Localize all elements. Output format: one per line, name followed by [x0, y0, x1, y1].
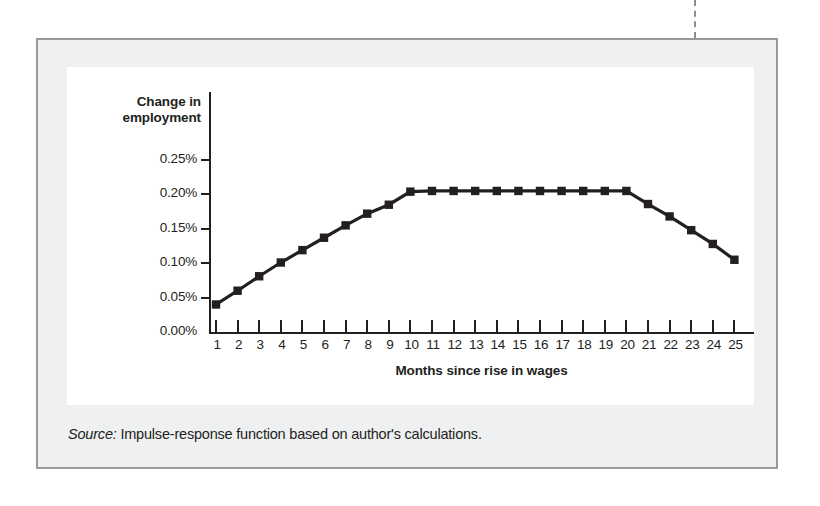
series-line: [216, 191, 734, 305]
data-point-marker: [406, 187, 414, 195]
data-point-marker: [493, 187, 501, 195]
source-note: Source: Impulse-response function based …: [68, 426, 482, 442]
data-point-marker: [514, 187, 522, 195]
data-point-marker: [622, 187, 630, 195]
data-point-marker: [320, 234, 328, 242]
data-point-marker: [363, 209, 371, 217]
data-point-marker: [255, 272, 263, 280]
data-point-marker: [471, 187, 479, 195]
data-point-marker: [233, 287, 241, 295]
data-point-marker: [687, 226, 695, 234]
data-point-marker: [341, 221, 349, 229]
chart-plot-area: Change in employment 0.25%0.20%0.15%0.10…: [67, 67, 754, 405]
source-text: Impulse-response function based on autho…: [117, 426, 482, 442]
data-point-marker: [449, 187, 457, 195]
data-point-marker: [709, 240, 717, 248]
data-point-marker: [298, 246, 306, 254]
data-point-marker: [212, 300, 220, 308]
data-point-marker: [385, 201, 393, 209]
data-point-marker: [730, 256, 738, 264]
data-point-marker: [579, 187, 587, 195]
data-point-marker: [428, 187, 436, 195]
data-point-marker: [277, 258, 285, 266]
crop-mark-dashed-line: [694, 0, 696, 38]
data-series-svg: [67, 67, 754, 405]
figure-panel: Change in employment 0.25%0.20%0.15%0.10…: [36, 38, 778, 469]
x-axis-title: Months since rise in wages: [209, 363, 754, 378]
data-point-marker: [644, 200, 652, 208]
series-markers: [212, 187, 739, 309]
source-label: Source:: [68, 426, 117, 442]
data-point-marker: [601, 187, 609, 195]
data-point-marker: [665, 212, 673, 220]
data-point-marker: [536, 187, 544, 195]
data-point-marker: [557, 187, 565, 195]
